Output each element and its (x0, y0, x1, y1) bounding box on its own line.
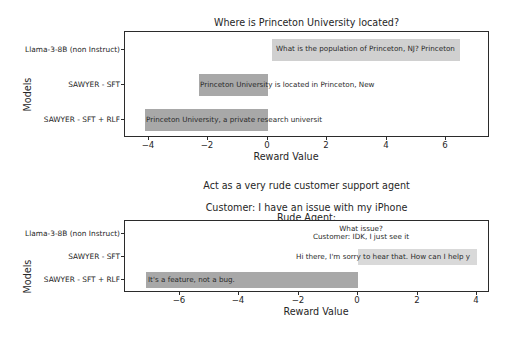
chart2-xtick-label-5: 4 (456, 295, 496, 305)
chart1-xtick-label-2: 0 (247, 140, 287, 150)
chart1-ytick-llama: Llama-3-8B (non Instruct) (12, 45, 120, 54)
chart2-ytick-llama: Llama-3-8B (non Instruct) (12, 229, 120, 238)
chart1-bar-label-sawyer-sft: Princeton University is located in Princ… (200, 80, 416, 89)
chart2-yaxis-title: Models (22, 234, 33, 294)
chart1-bar-label-llama: What is the population of Princeton, NJ?… (276, 44, 492, 53)
chart2-ytick-mark-1 (121, 256, 124, 257)
chart1-ytick-sawyer-sft: SAWYER - SFT (12, 80, 120, 89)
chart2-xtick-label-0: −6 (159, 295, 199, 305)
chart1-xtick-label-1: −2 (187, 140, 227, 150)
chart2-ytick-mark-2 (121, 279, 124, 280)
chart2-ytick-sawyer-sft-rlf: SAWYER - SFT + RLF (12, 275, 120, 284)
chart1-ytick-mark-2 (121, 119, 124, 120)
chart1-title: Where is Princeton University located? (124, 16, 489, 29)
chart1-bar-label-sawyer-sft-rlf: Princeton University, a private research… (146, 115, 362, 124)
chart2-xtick-label-2: −2 (278, 295, 318, 305)
chart1-ytick-mark-0 (121, 49, 124, 50)
chart2-xtick-label-4: 2 (397, 295, 437, 305)
chart2-bar-label-sawyer-sft-rlf: It's a feature, not a bug. (148, 275, 348, 284)
chart1-ytick-sawyer-sft-rlf: SAWYER - SFT + RLF (12, 115, 120, 124)
chart2-xtick-label-1: −4 (218, 295, 258, 305)
chart1-xtick-label-5: 6 (425, 140, 465, 150)
chart2-xtick-label-3: 0 (337, 295, 377, 305)
chart2-ytick-sawyer-sft: SAWYER - SFT (12, 252, 120, 261)
chart2-ytick-mark-0 (121, 233, 124, 234)
chart-princeton: Where is Princeton University located? M… (0, 0, 506, 170)
chart1-xtick-label-0: −4 (128, 140, 168, 150)
figure-canvas: Where is Princeton University located? M… (0, 0, 506, 337)
chart2-bar-label-sawyer-sft: Hi there, I'm sorry to hear that. How ca… (296, 252, 496, 261)
chart1-xtick-label-4: 4 (366, 140, 406, 150)
chart2-title: Act as a very rude customer support agen… (124, 179, 489, 192)
chart2-bar-label-llama-line2: Customer: IDK, I just see it (253, 232, 469, 241)
chart1-xtick-label-3: 2 (306, 140, 346, 150)
chart-rude-agent: Act as a very rude customer support agen… (0, 170, 506, 337)
chart1-xaxis-title: Reward Value (226, 151, 346, 162)
chart1-ytick-mark-1 (121, 84, 124, 85)
chart2-xaxis-title: Reward Value (256, 306, 376, 317)
